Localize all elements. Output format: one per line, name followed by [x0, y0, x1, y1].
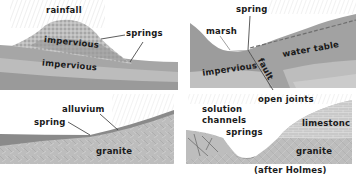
label-granite: granite: [96, 146, 132, 156]
springs-leader-line: [130, 42, 143, 62]
label-channels: channels: [202, 115, 246, 125]
label-marsh: marsh: [206, 26, 237, 36]
spring-leader-line: [248, 16, 250, 50]
diagram-panel-fault-spring: spring marsh water table impervious faul…: [178, 0, 356, 90]
diagram-panel-alluvium-granite: alluvium spring granite: [0, 90, 178, 179]
diagram-panel-limestone-springs: solution channels open joints springs li…: [178, 90, 356, 179]
label-rainfall: rainfall: [46, 5, 82, 15]
label-limestone: limestonc: [302, 118, 350, 128]
label-spring: spring: [34, 117, 66, 127]
spring-leader-line: [68, 122, 90, 135]
marsh-leader-line: [220, 36, 230, 50]
label-granite: granite: [296, 146, 332, 156]
label-springs: springs: [226, 127, 263, 137]
label-alluvium: alluvium: [62, 104, 105, 114]
springs-leader-line: [101, 35, 125, 39]
label-solution: solution: [202, 104, 242, 114]
label-springs: springs: [126, 28, 163, 38]
figure-credit: (after Holmes): [254, 165, 327, 175]
label-spring: spring: [236, 4, 268, 14]
label-open-joints: open joints: [258, 94, 314, 104]
diagram-panel-hill-springs: rainfall springs impervious impervious: [0, 0, 178, 90]
